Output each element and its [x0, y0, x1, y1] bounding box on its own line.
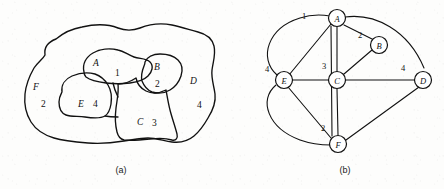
- graph-node-d[interactable]: D: [415, 72, 432, 89]
- panel-a-region-map: F 2 A 1 B 2 D 4 E 4 C 3: [25, 24, 215, 143]
- node-b-label: B: [376, 41, 381, 51]
- caption-panel-b: (b): [340, 165, 351, 175]
- caption-panel-a: (a): [116, 165, 127, 175]
- map-region-e-boundary: [59, 73, 111, 118]
- map-label-a-number: 1: [115, 68, 120, 78]
- map-label-e-number: 4: [93, 99, 98, 109]
- edge-label-a-e: 1: [302, 11, 306, 21]
- map-label-b-number: 2: [155, 79, 160, 89]
- graph-node-b[interactable]: B: [371, 37, 388, 54]
- edge-f-d: [346, 87, 419, 140]
- edge-label-c-f: 2: [321, 123, 325, 133]
- map-label-c-number: 3: [152, 118, 157, 128]
- map-label-c-letter: C: [137, 117, 144, 127]
- edge-e-f-outer: [267, 85, 331, 145]
- edge-label-e-f: 4: [265, 64, 270, 74]
- edge-label-a-b: 2: [358, 30, 362, 40]
- graph-node-a[interactable]: A: [329, 10, 346, 27]
- node-d-label: D: [419, 76, 427, 86]
- graph-node-c[interactable]: C: [329, 72, 346, 89]
- node-a-label: A: [333, 14, 340, 24]
- map-divider-a-c: [113, 83, 118, 97]
- map-label-e-letter: E: [77, 99, 84, 109]
- panel-b-graph: A B C D E F 1 2: [265, 10, 432, 153]
- map-label-f-letter: F: [32, 82, 39, 92]
- figure-container: F 2 A 1 B 2 D 4 E 4 C 3: [0, 0, 444, 189]
- map-label-d-number: 4: [197, 100, 202, 110]
- edge-label-a-c: 3: [322, 61, 326, 71]
- node-f-label: F: [334, 140, 341, 150]
- node-e-label: E: [280, 76, 287, 86]
- edge-b-c: [344, 50, 372, 74]
- edge-label-c-d: 4: [401, 63, 406, 73]
- graph-node-f[interactable]: F: [330, 136, 347, 153]
- figure-svg: F 2 A 1 B 2 D 4 E 4 C 3: [0, 0, 444, 189]
- map-label-b-letter: B: [154, 62, 160, 72]
- graph-node-e[interactable]: E: [276, 72, 293, 89]
- edge-e-a-outer: [267, 15, 330, 75]
- map-label-d-letter: D: [189, 76, 197, 86]
- edge-c-f: [337, 89, 338, 135]
- map-label-a-letter: A: [92, 58, 99, 68]
- node-c-label: C: [334, 76, 340, 86]
- map-label-f-number: 2: [41, 99, 46, 109]
